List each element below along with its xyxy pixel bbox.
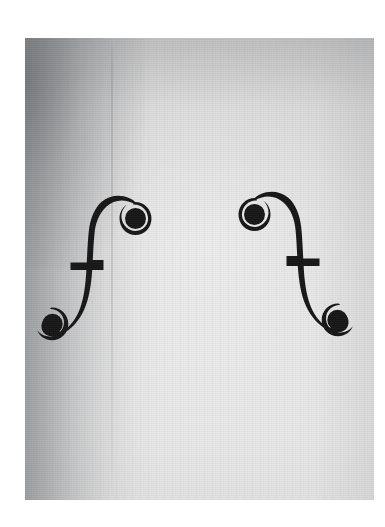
film-grain-overlay xyxy=(25,38,374,500)
photograph xyxy=(25,38,374,500)
